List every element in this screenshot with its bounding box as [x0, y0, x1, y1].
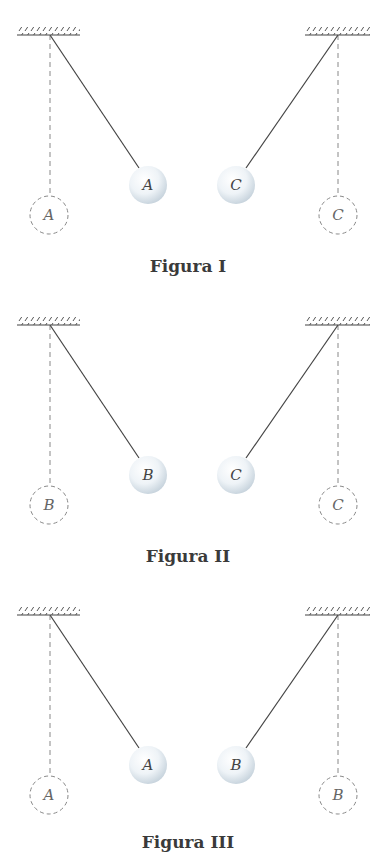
left-ceiling-support — [17, 317, 80, 325]
svg-text:B: B — [141, 466, 153, 484]
svg-text:C: C — [230, 466, 242, 484]
svg-text:B: B — [331, 786, 343, 804]
svg-text:C: C — [332, 206, 344, 224]
svg-text:A: A — [42, 786, 55, 804]
figure-caption: Figura III — [142, 832, 235, 852]
figure-2: B C B C Figura II — [17, 317, 370, 566]
right-ceiling-support — [305, 27, 370, 35]
left-string — [50, 35, 139, 168]
left-string — [50, 325, 139, 458]
right-string — [246, 325, 338, 458]
left-string — [50, 615, 139, 748]
left-ghost-sphere: A — [30, 196, 68, 234]
figure-3: A B A B Figura III — [17, 607, 370, 852]
right-ceiling-support — [305, 607, 370, 615]
right-sphere: C — [217, 166, 255, 204]
right-ceiling-support — [305, 317, 370, 325]
left-sphere: B — [129, 456, 167, 494]
svg-text:B: B — [229, 756, 241, 774]
cropped-text-line — [0, 0, 375, 6]
diagram-canvas: A C A C Figura I — [0, 0, 375, 856]
svg-text:B: B — [42, 496, 54, 514]
svg-text:A: A — [42, 206, 55, 224]
right-ghost-sphere: B — [319, 776, 357, 814]
svg-text:C: C — [332, 496, 344, 514]
svg-text:A: A — [141, 756, 154, 774]
right-sphere: B — [217, 746, 255, 784]
pendulum-diagram: A C A C Figura I — [0, 0, 375, 856]
right-string — [246, 35, 338, 168]
right-ghost-sphere: C — [319, 196, 357, 234]
left-ghost-sphere: A — [30, 776, 68, 814]
right-sphere: C — [217, 456, 255, 494]
figure-caption: Figura II — [146, 546, 231, 566]
left-ceiling-support — [17, 27, 80, 35]
right-ghost-sphere: C — [319, 486, 357, 524]
figure-caption: Figura I — [150, 256, 227, 276]
right-string — [246, 615, 338, 748]
left-sphere: A — [129, 746, 167, 784]
left-ghost-sphere: B — [30, 486, 68, 524]
svg-text:A: A — [141, 176, 154, 194]
left-ceiling-support — [17, 607, 80, 615]
left-sphere: A — [129, 166, 167, 204]
svg-text:C: C — [230, 176, 242, 194]
figure-1: A C A C Figura I — [17, 27, 370, 276]
